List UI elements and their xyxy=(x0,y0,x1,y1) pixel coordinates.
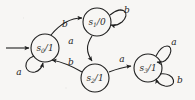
edge-label-s0-self-loop: a xyxy=(16,67,21,77)
edge-label-s1-self-loop: b xyxy=(124,5,130,15)
state-diagram-canvas xyxy=(0,0,195,100)
transition-s1-to-s2 xyxy=(88,36,93,61)
state-label-s2: s2/1 xyxy=(86,73,103,84)
state-diagram-figure: s0/1 s1/0 s2/1 s3/1 b b a a b a a b xyxy=(0,0,195,100)
edge-label-s2-to-s0: b xyxy=(68,57,74,67)
edge-label-s2-to-s3: a xyxy=(119,54,124,64)
transition-s2-to-s3 xyxy=(109,66,131,72)
edge-label-s0-to-s1: b xyxy=(62,19,68,29)
edge-label-s3-self-loop-upper: a xyxy=(171,37,176,47)
transition-s3-self-loop-lower xyxy=(156,74,174,86)
state-label-s0: s0/1 xyxy=(36,43,53,54)
edge-label-s1-to-s2: a xyxy=(68,36,73,46)
transition-s2-to-s0 xyxy=(52,60,82,72)
transition-s3-self-loop-upper xyxy=(156,46,171,62)
edge-label-s3-self-loop-lower: b xyxy=(177,75,183,85)
transition-s0-self-loop xyxy=(26,56,43,72)
state-label-s1: s1/0 xyxy=(88,17,105,28)
state-label-s3: s3/1 xyxy=(139,63,156,74)
